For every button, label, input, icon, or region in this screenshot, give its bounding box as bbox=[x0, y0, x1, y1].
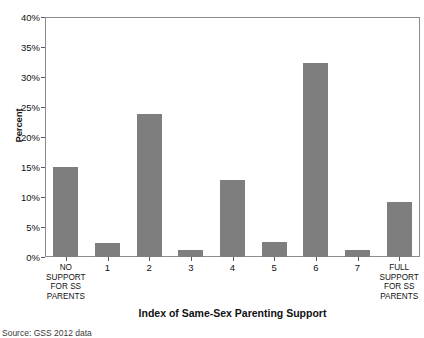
x-axis-tick-label: 2 bbox=[147, 263, 152, 274]
x-axis-tick-mark bbox=[399, 257, 400, 261]
bars-layer bbox=[45, 17, 420, 257]
bar bbox=[137, 114, 162, 257]
x-axis-tick-mark bbox=[233, 257, 234, 261]
bar-chart: Percent 0%5%10%15%20%25%30%35%40% NO SUP… bbox=[0, 0, 424, 338]
x-axis-title: Index of Same-Sex Parenting Support bbox=[45, 307, 420, 319]
x-axis-tick-mark bbox=[358, 257, 359, 261]
bar bbox=[345, 250, 370, 257]
y-axis-title: Percent bbox=[13, 86, 24, 166]
y-axis-tick-label: 40% bbox=[6, 12, 40, 23]
x-axis-tick-mark bbox=[149, 257, 150, 261]
y-axis-tick-mark bbox=[41, 257, 45, 258]
y-axis-tick-label: 20% bbox=[6, 132, 40, 143]
bar bbox=[95, 243, 120, 257]
y-axis-tick-label: 0% bbox=[6, 252, 40, 263]
bar bbox=[53, 167, 78, 257]
x-axis-tick-label: 7 bbox=[355, 263, 360, 274]
y-axis-tick-label: 35% bbox=[6, 42, 40, 53]
x-axis-tick-label: NO SUPPORT FOR SS PARENTS bbox=[35, 263, 97, 301]
y-axis-tick-label: 5% bbox=[6, 222, 40, 233]
y-axis-tick-label: 15% bbox=[6, 162, 40, 173]
y-axis-tick-label: 30% bbox=[6, 72, 40, 83]
x-axis-tick-label: 4 bbox=[230, 263, 235, 274]
y-axis-tick-label: 10% bbox=[6, 192, 40, 203]
bar bbox=[178, 250, 203, 257]
x-axis-tick-mark bbox=[108, 257, 109, 261]
x-axis-tick-mark bbox=[191, 257, 192, 261]
x-axis-tick-label: FULL SUPPORT FOR SS PARENTS bbox=[368, 263, 424, 301]
y-axis-tick-label: 25% bbox=[6, 102, 40, 113]
bar bbox=[303, 63, 328, 257]
x-axis-tick-mark bbox=[274, 257, 275, 261]
source-note: Source: GSS 2012 data bbox=[2, 328, 92, 338]
bar bbox=[220, 180, 245, 257]
x-axis-tick-mark bbox=[66, 257, 67, 261]
x-axis-tick-label: 1 bbox=[105, 263, 110, 274]
x-axis-tick-mark bbox=[316, 257, 317, 261]
x-axis-tick-label: 6 bbox=[313, 263, 318, 274]
x-axis-tick-label: 5 bbox=[272, 263, 277, 274]
bar bbox=[387, 202, 412, 257]
x-axis-tick-label: 3 bbox=[188, 263, 193, 274]
bar bbox=[262, 242, 287, 257]
